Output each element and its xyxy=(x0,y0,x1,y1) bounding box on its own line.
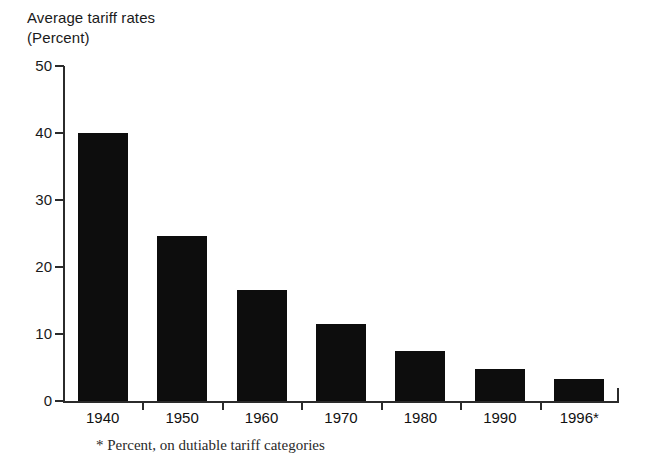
bar xyxy=(395,351,445,401)
x-axis-line xyxy=(63,401,619,403)
chart-footnote: * Percent, on dutiable tariff categories xyxy=(96,437,325,454)
bar xyxy=(157,236,207,401)
x-axis-tick-label: 1970 xyxy=(301,409,380,426)
bar xyxy=(475,369,525,401)
plot-area: 01020304050 1940195019601970198019901996… xyxy=(0,0,646,454)
x-axis-tick-label: 1990 xyxy=(460,409,539,426)
x-axis-tick-label: 1960 xyxy=(222,409,301,426)
bar xyxy=(78,133,128,401)
x-axis-tick-label: 1996* xyxy=(540,409,619,426)
chart-figure: Average tariff rates (Percent) 010203040… xyxy=(0,0,646,454)
bar xyxy=(316,324,366,401)
x-axis-tick-label: 1950 xyxy=(142,409,221,426)
bars-layer xyxy=(0,0,646,401)
bar xyxy=(554,379,604,401)
x-axis-tick-label: 1940 xyxy=(63,409,142,426)
bar xyxy=(237,290,287,401)
x-axis-tick-label: 1980 xyxy=(381,409,460,426)
